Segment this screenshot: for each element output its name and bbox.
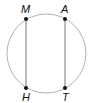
label-A: A [60, 3, 68, 15]
point-H [24, 86, 28, 90]
label-T: T [62, 91, 70, 103]
label-H: H [22, 91, 30, 103]
point-T [63, 86, 67, 90]
point-M [24, 17, 28, 21]
label-M: M [21, 3, 31, 15]
point-A [63, 17, 67, 21]
circle [7, 14, 86, 93]
circle-diagram: M A H T [0, 0, 91, 103]
